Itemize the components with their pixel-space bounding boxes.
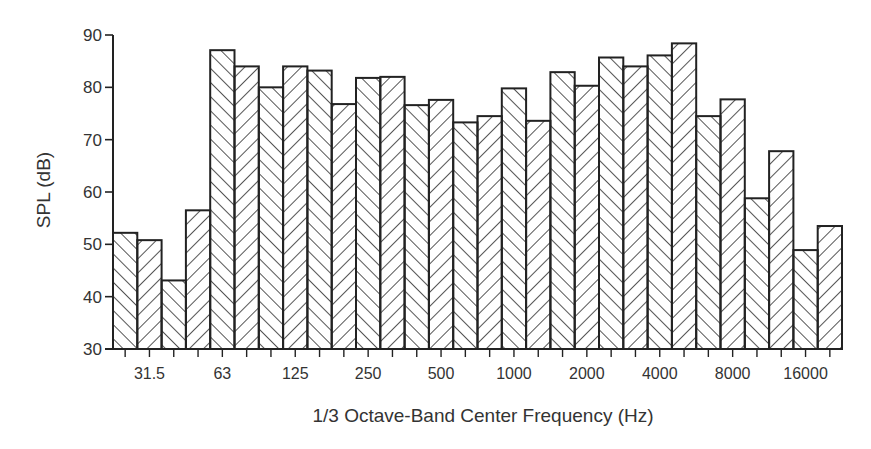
- y-tick-label: 60: [83, 183, 102, 202]
- bar-1600hz: 1600 Hz: 82.9 dB: [550, 72, 574, 349]
- bar-200hz: 200 Hz: 76.8 dB: [332, 104, 356, 349]
- bar-2000hz: 2000 Hz: 80.3 dB: [575, 86, 599, 349]
- x-tick-label: 125: [282, 365, 309, 382]
- bar-500hz: 500 Hz: 77.6 dB: [429, 100, 453, 349]
- x-tick-label: 8000: [715, 365, 751, 382]
- x-tick-label: 1000: [496, 365, 532, 382]
- bar-160hz: 160 Hz: 83.2 dB: [307, 71, 331, 349]
- x-axis-label: 1/3 Octave-Band Center Frequency (Hz): [312, 405, 653, 427]
- bar-31.5hz: 31.5 Hz: 50.8 dB: [137, 240, 161, 349]
- spl-bar-chart: 25 Hz: 52.2 dB31.5 Hz: 50.8 dB40 Hz: 43.…: [0, 0, 871, 449]
- x-tick-label: 500: [428, 365, 455, 382]
- bar-20000hz: 20000 Hz: 53.5 dB: [818, 226, 842, 349]
- bar-250hz: 250 Hz: 81.8 dB: [356, 78, 380, 349]
- x-tick-label: 31.5: [134, 365, 165, 382]
- bar-12500hz: 12500 Hz: 67.8 dB: [769, 151, 793, 349]
- bar-5000hz: 5000 Hz: 88.4 dB: [672, 43, 696, 349]
- bar-400hz: 400 Hz: 76.6 dB: [405, 105, 429, 349]
- y-tick-label: 50: [83, 235, 102, 254]
- bar-100hz: 100 Hz: 80 dB: [259, 87, 283, 349]
- bar-40hz: 40 Hz: 43.1 dB: [162, 280, 186, 349]
- bar-2500hz: 2500 Hz: 85.7 dB: [599, 58, 623, 350]
- x-tick-label: 63: [213, 365, 231, 382]
- bar-50hz: 50 Hz: 56.5 dB: [186, 210, 210, 349]
- bar-10000hz: 10000 Hz: 58.8 dB: [745, 198, 769, 349]
- bar-6300hz: 6300 Hz: 74.5 dB: [696, 116, 720, 349]
- bar-125hz: 125 Hz: 84 dB: [283, 66, 307, 349]
- y-tick-label: 40: [83, 288, 102, 307]
- y-axis-label: SPL (dB): [33, 152, 55, 228]
- bar-315hz: 315 Hz: 82 dB: [380, 77, 404, 349]
- bar-16000hz: 16000 Hz: 48.9 dB: [793, 250, 817, 349]
- x-tick-label: 2000: [569, 365, 605, 382]
- bar-8000hz: 8000 Hz: 77.7 dB: [721, 99, 745, 349]
- y-tick-label: 90: [83, 26, 102, 45]
- bar-1000hz: 1000 Hz: 79.8 dB: [502, 88, 526, 349]
- bars-group: 25 Hz: 52.2 dB31.5 Hz: 50.8 dB40 Hz: 43.…: [113, 43, 842, 349]
- bar-63hz: 63 Hz: 87.1 dB: [210, 50, 234, 349]
- y-tick-label: 80: [83, 78, 102, 97]
- bar-3150hz: 3150 Hz: 84 dB: [623, 66, 647, 349]
- bar-25hz: 25 Hz: 52.2 dB: [113, 233, 137, 349]
- bar-80hz: 80 Hz: 84 dB: [235, 66, 259, 349]
- y-tick-label: 70: [83, 131, 102, 150]
- x-tick-label: 16000: [783, 365, 828, 382]
- bar-1250hz: 1250 Hz: 73.6 dB: [526, 121, 550, 349]
- x-tick-label: 250: [355, 365, 382, 382]
- bar-800hz: 800 Hz: 74.5 dB: [478, 116, 502, 349]
- x-tick-label: 4000: [642, 365, 678, 382]
- y-tick-label: 30: [83, 340, 102, 359]
- bar-4000hz: 4000 Hz: 86.1 dB: [648, 55, 672, 349]
- bar-630hz: 630 Hz: 73.3 dB: [453, 122, 477, 349]
